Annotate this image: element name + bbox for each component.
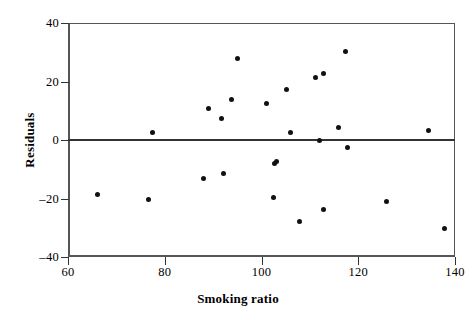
data-point <box>95 192 100 197</box>
data-point <box>317 138 322 143</box>
data-point <box>201 176 206 181</box>
scatter-plot-figure: 40200–20–40 6080100120140 Residuals Smok… <box>0 0 476 320</box>
x-tick-mark <box>165 257 166 265</box>
x-tick-mark <box>262 257 263 265</box>
zero-reference-line <box>68 139 455 141</box>
x-tick-label: 100 <box>242 266 282 279</box>
y-axis-title: Residuals <box>22 112 38 167</box>
y-tick-mark <box>61 199 69 200</box>
data-point <box>345 145 350 150</box>
data-point <box>288 130 293 135</box>
x-tick-label: 120 <box>338 266 378 279</box>
y-tick-label: 40 <box>15 17 59 30</box>
data-point <box>321 71 326 76</box>
y-tick-mark <box>61 23 69 24</box>
data-point <box>264 101 269 106</box>
data-point <box>221 171 226 176</box>
x-tick-label: 80 <box>145 266 185 279</box>
x-tick-label: 60 <box>48 266 88 279</box>
data-point <box>384 199 389 204</box>
y-tick-mark <box>61 82 69 83</box>
data-point <box>274 159 279 164</box>
x-tick-label: 140 <box>435 266 475 279</box>
x-tick-mark <box>358 257 359 265</box>
y-tick-label: –20 <box>15 193 59 206</box>
y-tick-label: –40 <box>15 251 59 264</box>
data-point <box>206 106 211 111</box>
y-tick-mark <box>61 140 69 141</box>
data-point <box>284 87 289 92</box>
x-axis-title: Smoking ratio <box>0 291 476 307</box>
y-tick-label: 20 <box>15 76 59 89</box>
x-tick-mark <box>68 257 69 265</box>
x-tick-mark <box>455 257 456 265</box>
